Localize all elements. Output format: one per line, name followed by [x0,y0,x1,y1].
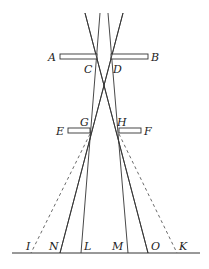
label-I: I [25,240,31,253]
label-M: M [111,240,124,253]
label-K: K [178,240,188,253]
label-B: B [150,51,159,64]
dashed-ray-H-to-K [119,134,177,253]
upper-plate-right-DB [111,54,148,59]
label-D: D [112,63,122,76]
label-E: E [55,125,64,138]
label-H: H [116,116,127,129]
label-C: C [84,63,93,76]
label-N: N [48,240,59,253]
label-L: L [83,240,91,253]
label-O: O [151,240,160,253]
dashed-ray-G-to-I [31,134,90,253]
label-A: A [47,51,56,64]
label-G: G [80,116,89,129]
upper-plate-left-AC [60,54,97,59]
optics-diagram: A B C D E F G H I N L M O K [0,0,209,269]
label-F: F [143,125,152,138]
